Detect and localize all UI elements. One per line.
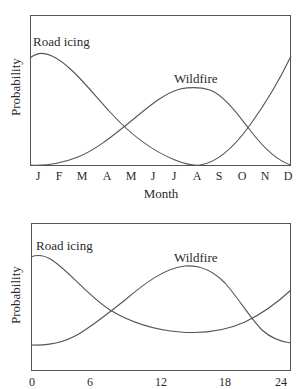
bottom-road-icing-curve — [31, 256, 291, 333]
figure: Road icing Wildfire Probability J F M A … — [0, 0, 308, 389]
tick-sep: S — [216, 169, 223, 183]
bottom-chart: Road icing Wildfire Probability 0 6 12 1… — [8, 224, 291, 389]
tick-dec: D — [284, 169, 293, 183]
tick-12: 12 — [155, 375, 167, 389]
tick-jun: J — [151, 169, 156, 183]
bottom-y-axis-label: Probability — [8, 266, 23, 324]
bottom-x-ticks: 0 6 12 18 24 — [29, 375, 287, 389]
bottom-wildfire-label: Wildfire — [174, 250, 218, 265]
bottom-wildfire-curve — [31, 266, 291, 345]
top-road-icing-label: Road icing — [33, 34, 90, 49]
top-x-axis-label: Month — [144, 186, 179, 201]
top-wildfire-label: Wildfire — [174, 71, 218, 86]
tick-0: 0 — [29, 375, 35, 389]
tick-aug: A — [193, 169, 202, 183]
tick-feb: F — [56, 169, 63, 183]
tick-mar: M — [77, 169, 88, 183]
tick-apr: A — [103, 169, 112, 183]
tick-jan: J — [36, 169, 41, 183]
top-x-ticks: J F M A M J J A S O N D — [36, 169, 293, 183]
tick-nov: N — [261, 169, 270, 183]
tick-may: M — [126, 169, 137, 183]
tick-oct: O — [238, 169, 247, 183]
tick-24: 24 — [275, 375, 287, 389]
tick-18: 18 — [219, 375, 231, 389]
bottom-road-icing-label: Road icing — [36, 238, 93, 253]
top-y-axis-label: Probability — [8, 58, 23, 116]
tick-6: 6 — [87, 375, 93, 389]
tick-jul: J — [172, 169, 177, 183]
top-road-icing-curve — [30, 54, 291, 166]
top-chart: Road icing Wildfire Probability J F M A … — [8, 16, 293, 202]
